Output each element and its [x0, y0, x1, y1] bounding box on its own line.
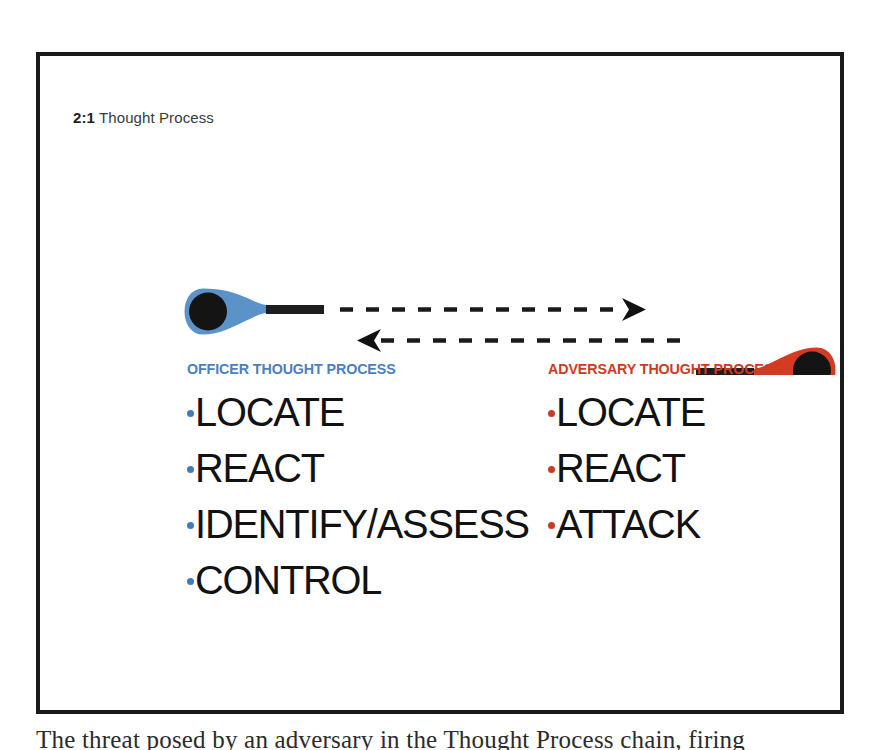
- bullet-icon: [187, 466, 194, 473]
- list-item: REACT: [548, 440, 803, 496]
- list-item-label: ATTACK: [556, 504, 700, 545]
- slide-label-number: 2:1: [73, 109, 95, 126]
- list-item: REACT: [187, 440, 539, 496]
- slide-label-text: Thought Process: [99, 109, 214, 126]
- arrowhead-left-icon: [357, 329, 381, 352]
- officer-figure-icon: [188, 292, 324, 331]
- arrow-officer-to-adversary: [340, 298, 646, 321]
- list-item: ATTACK: [548, 496, 803, 552]
- adversary-thought-process-column: ADVERSARY THOUGHT PROCESS LOCATE REACT A…: [548, 360, 803, 552]
- arrowhead-right-icon: [622, 298, 646, 321]
- figure-slide-label: 2:1 Thought Process: [73, 109, 214, 126]
- officer-column-heading: OFFICER THOUGHT PROCESS: [187, 360, 511, 378]
- bullet-icon: [548, 522, 555, 529]
- bullet-icon: [187, 522, 194, 529]
- list-item-label: CONTROL: [195, 560, 381, 601]
- confrontation-diagram: [170, 245, 850, 375]
- bullet-icon: [187, 578, 194, 585]
- officer-weapon-barrel: [266, 305, 324, 314]
- list-item: CONTROL: [187, 552, 539, 608]
- arrow-adversary-to-officer: [357, 329, 682, 352]
- list-item-label: IDENTIFY/ASSESS: [195, 504, 529, 545]
- list-item: IDENTIFY/ASSESS: [187, 496, 539, 552]
- list-item: LOCATE: [187, 384, 539, 440]
- bullet-icon: [548, 410, 555, 417]
- list-item-label: REACT: [195, 448, 324, 489]
- list-item-label: LOCATE: [556, 392, 705, 433]
- page-body-text-clipped: The threat posed by an adversary in the …: [36, 726, 877, 750]
- adversary-thought-list: LOCATE REACT ATTACK: [548, 384, 803, 552]
- adversary-column-heading: ADVERSARY THOUGHT PROCESS: [548, 360, 783, 378]
- officer-thought-list: LOCATE REACT IDENTIFY/ASSESS CONTROL: [187, 384, 539, 608]
- officer-thought-process-column: OFFICER THOUGHT PROCESS LOCATE REACT IDE…: [187, 360, 539, 608]
- list-item-label: LOCATE: [195, 392, 344, 433]
- bullet-icon: [548, 466, 555, 473]
- list-item-label: REACT: [556, 448, 685, 489]
- officer-head-circle: [189, 293, 227, 331]
- bullet-icon: [187, 410, 194, 417]
- list-item: LOCATE: [548, 384, 803, 440]
